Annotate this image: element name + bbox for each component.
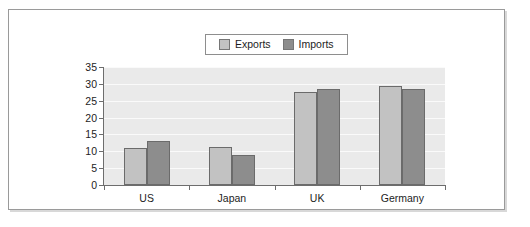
legend-entry-imports: Imports: [283, 39, 334, 50]
legend-label-exports: Exports: [235, 39, 271, 50]
y-tick-label: 25: [57, 96, 97, 106]
x-tick-label-uk: UK: [277, 192, 357, 204]
y-tick-label: 15: [57, 129, 97, 139]
x-tick-label-germany: Germany: [362, 192, 442, 204]
y-tick-mark: [99, 151, 103, 152]
y-tick-label: 5: [57, 163, 97, 173]
x-tick-mark: [445, 186, 446, 190]
y-tick-mark: [99, 67, 103, 68]
legend-entry-exports: Exports: [219, 39, 271, 50]
y-tick-label: 0: [57, 180, 97, 190]
bar-germany-imports: [402, 89, 425, 185]
x-tick-mark: [189, 186, 190, 190]
bar-germany-exports: [379, 86, 402, 185]
y-tick-mark: [99, 185, 103, 186]
y-tick-label: 20: [57, 113, 97, 123]
y-tick-mark: [99, 134, 103, 135]
x-tick-mark: [360, 186, 361, 190]
y-tick-mark: [99, 118, 103, 119]
y-tick-label: 10: [57, 146, 97, 156]
legend-swatch-exports: [219, 39, 230, 50]
bar-us-exports: [124, 148, 147, 185]
legend-label-imports: Imports: [299, 39, 334, 50]
bar-uk-exports: [294, 92, 317, 185]
y-axis-tick-labels: 05101520253035: [53, 10, 97, 209]
legend-swatch-imports: [283, 39, 294, 50]
y-tick-label: 35: [57, 62, 97, 72]
bar-japan-imports: [232, 155, 255, 185]
bar-us-imports: [147, 141, 170, 185]
y-tick-mark: [99, 101, 103, 102]
chart-legend: Exports Imports: [205, 34, 348, 55]
document-frame: Exports Imports 05101520253035 USJapanUK…: [8, 9, 505, 210]
y-tick-mark: [99, 168, 103, 169]
x-tick-mark: [275, 186, 276, 190]
x-tick-label-us: US: [107, 192, 187, 204]
y-tick-mark: [99, 84, 103, 85]
bar-uk-imports: [317, 89, 340, 185]
bar-japan-exports: [209, 147, 232, 185]
plot-area: [104, 67, 445, 185]
y-axis-line: [103, 67, 104, 186]
x-tick-label-japan: Japan: [192, 192, 272, 204]
y-tick-label: 30: [57, 79, 97, 89]
x-tick-mark: [104, 186, 105, 190]
gridline: [104, 67, 445, 68]
grouped-bar-chart: Exports Imports 05101520253035 USJapanUK…: [9, 10, 506, 209]
